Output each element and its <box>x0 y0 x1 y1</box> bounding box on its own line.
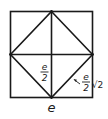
diagonal-radical: √2 <box>92 80 103 90</box>
half-side-numerator: e <box>42 62 48 72</box>
square-diagram: e 2 e 2 √2 e <box>0 0 108 119</box>
diagonal-denominator: 2 <box>83 83 89 93</box>
vertex-top <box>50 10 53 13</box>
vertex-right <box>91 53 94 56</box>
diagonal-numerator: e <box>83 72 89 82</box>
half-side-denominator: 2 <box>42 73 48 83</box>
vertex-left <box>9 53 12 56</box>
side-label: e <box>48 100 56 115</box>
vertex-bottom <box>50 96 53 99</box>
